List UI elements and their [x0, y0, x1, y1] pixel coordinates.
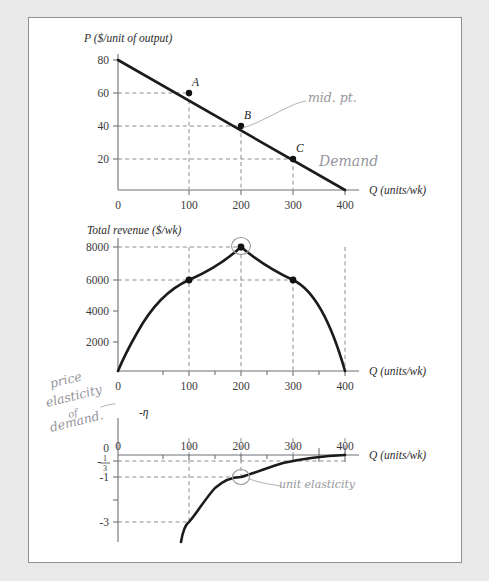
demand-annotation: Demand	[318, 153, 378, 169]
unit-elasticity-leader-line	[249, 479, 281, 486]
demand-ytick-80: 80	[98, 54, 110, 66]
price-elasticity-annotation: price elasticity of demand.	[44, 369, 115, 435]
demand-xtick-0: 0	[115, 199, 121, 211]
unit-elasticity-annotation: unit elasticity	[279, 478, 356, 491]
revenue-point-q200-peak	[238, 244, 245, 251]
three-panel-economics-figure: P ($/unit of output)	[29, 18, 461, 562]
demand-xtick-100: 100	[180, 199, 198, 211]
panel-total-revenue: Total revenue ($/wk)	[86, 224, 426, 392]
revenue-ytick-4000: 4000	[86, 305, 109, 317]
demand-y-axis-title: P ($/unit of output)	[83, 32, 172, 45]
figure-frame: P ($/unit of output)	[28, 17, 462, 563]
demand-x-axis-title: Q (units/wk)	[369, 184, 426, 197]
demand-point-c	[290, 156, 296, 162]
elasticity-y-ticks	[113, 461, 118, 522]
demand-point-a-label: A	[191, 76, 200, 88]
revenue-y-axis-title: Total revenue ($/wk)	[87, 224, 181, 237]
revenue-x-axis-title: Q (units/wk)	[369, 365, 426, 378]
revenue-xtick-200: 200	[232, 380, 250, 392]
demand-point-c-label: C	[296, 142, 304, 154]
revenue-xtick-400: 400	[336, 380, 354, 392]
revenue-ytick-8000: 8000	[86, 241, 109, 253]
total-revenue-curve	[118, 247, 345, 371]
midpoint-leader-line	[243, 101, 306, 128]
revenue-xtick-0: 0	[115, 380, 121, 392]
elasticity-y-axis-title: -η	[139, 406, 149, 419]
demand-xtick-400: 400	[336, 199, 354, 211]
demand-x-ticks	[189, 190, 345, 195]
revenue-ytick-6000: 6000	[86, 274, 109, 286]
demand-ytick-20: 20	[98, 153, 110, 165]
revenue-x-ticks	[163, 371, 345, 376]
revenue-y-ticks	[113, 247, 118, 342]
revenue-xtick-300: 300	[284, 380, 302, 392]
elasticity-ytick-minus1: -1	[99, 471, 109, 483]
demand-gridlines	[118, 93, 293, 189]
elasticity-xtick-300: 300	[284, 440, 302, 452]
elasticity-ytick-numerator: 1	[103, 454, 107, 463]
figure-page: P ($/unit of output)	[0, 0, 489, 581]
elasticity-x-axis-title: Q (units/wk)	[369, 449, 426, 462]
midpoint-annotation: mid. pt.	[308, 90, 357, 105]
panel-demand-curve: P ($/unit of output)	[83, 32, 426, 211]
elasticity-ytick-minus-sign: -	[97, 455, 101, 467]
revenue-xtick-100: 100	[180, 380, 198, 392]
elasticity-ytick-0: 0	[103, 442, 109, 454]
revenue-point-q100	[186, 277, 193, 284]
demand-line	[118, 60, 345, 190]
revenue-ytick-2000: 2000	[86, 336, 109, 348]
demand-xtick-200: 200	[232, 199, 250, 211]
elasticity-xtick-0: 0	[115, 440, 121, 452]
elasticity-xtick-400: 400	[336, 440, 354, 452]
elasticity-xtick-200: 200	[232, 440, 250, 452]
revenue-point-q300	[290, 277, 297, 284]
panel-price-elasticity: -η	[44, 369, 426, 542]
demand-point-a	[186, 90, 192, 96]
demand-y-ticks	[113, 60, 118, 159]
demand-point-b-label: B	[244, 109, 251, 121]
elasticity-curve	[181, 455, 345, 542]
demand-ytick-60: 60	[98, 87, 110, 99]
elasticity-xtick-100: 100	[180, 440, 198, 452]
demand-xtick-300: 300	[284, 199, 302, 211]
demand-ytick-40: 40	[98, 120, 110, 132]
elasticity-ytick-minus3: -3	[99, 516, 109, 528]
price-elasticity-leader-line	[101, 404, 115, 407]
